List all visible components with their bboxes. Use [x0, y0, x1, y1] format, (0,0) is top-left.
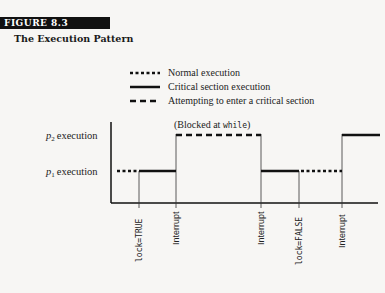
- row-label-p1: p1execution: [45, 166, 98, 179]
- execution-diagram: Normal execution Critical section execut…: [0, 0, 385, 293]
- legend-item-critical: Critical section execution: [130, 81, 270, 92]
- event-label-interrupt-3: Interrupt: [337, 214, 347, 248]
- blocked-annotation: (Blocked at while): [174, 119, 250, 131]
- legend: Normal execution Critical section execut…: [130, 67, 314, 106]
- event-label-lock-false: lock=FALSE: [295, 217, 304, 265]
- event-label-interrupt-2: Interrupt: [256, 211, 266, 245]
- legend-item-attempting: Attempting to enter a critical section: [130, 95, 314, 106]
- row-label-p2: p2execution: [45, 130, 98, 143]
- event-label-lock-true: lock=TRUE: [135, 218, 144, 262]
- legend-label-normal: Normal execution: [168, 67, 240, 78]
- legend-label-attempting: Attempting to enter a critical section: [168, 95, 314, 106]
- legend-label-critical: Critical section execution: [168, 81, 270, 92]
- event-label-interrupt-1: Interrupt: [171, 211, 181, 245]
- legend-item-normal: Normal execution: [130, 67, 240, 78]
